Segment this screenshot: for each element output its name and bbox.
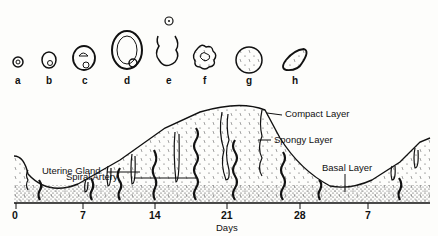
label-spongy-layer: Spongy Layer [274,134,333,145]
endometrium [14,105,430,203]
follicle-letter: b [46,75,52,86]
axis-ticks [16,203,368,209]
label-basal-layer: Basal Layer [322,162,372,173]
follicle-d [112,31,142,69]
diagram-canvas: a b c d e f g h [0,0,438,236]
follicle-letter: g [246,75,252,86]
label-uterine-gland: Uterine Gland [42,165,101,176]
follicle-g [236,47,262,73]
basal-layer-region [14,185,430,203]
tick-label: 21 [221,209,233,221]
follicle-c [73,46,95,70]
follicle-letters: a b c d e f g h [15,75,298,86]
tick-label: 7 [365,209,371,221]
follicle-h [283,49,307,70]
follicle-letter: h [292,75,298,86]
follicle-letter: a [15,75,21,86]
tick-label: 14 [149,209,161,221]
tick-label: 28 [294,209,306,221]
follicle-letter: c [82,75,88,86]
follicle-stages [13,17,307,73]
follicle-f-corpus-luteum [194,45,216,69]
follicle-b [42,52,56,68]
tick-label: 7 [80,209,86,221]
label-compact-layer: Compact Layer [285,108,349,119]
follicle-e-ovulation [157,17,178,66]
follicle-letter: e [166,75,172,86]
follicle-letter: f [203,75,207,86]
follicle-a [13,57,23,67]
menstrual-cycle-diagram: a b c d e f g h [0,0,438,236]
tick-label: 0 [12,209,18,221]
follicle-letter: d [124,75,130,86]
x-axis-label: Days [216,222,238,233]
